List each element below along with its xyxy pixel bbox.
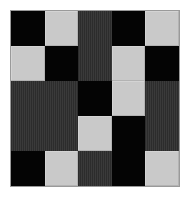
- grid-cell-dark-r3c4: [145, 116, 179, 151]
- grid-cell-dark-r4c2: [78, 151, 112, 186]
- grid-cell-black-r1c1: [45, 46, 79, 81]
- grid-cell-black-r2c2: [78, 81, 112, 116]
- grid-cell-light-r2c3: [112, 81, 146, 116]
- grid-cell-light-r4c1: [45, 151, 79, 186]
- grid-cell-dark-r0c2: [78, 11, 112, 46]
- grid-cell-dark-r3c0: [11, 116, 45, 151]
- grid-cell-black-r4c3: [112, 151, 146, 186]
- checkerboard-grid: [11, 11, 179, 186]
- grid-cell-dark-r2c0: [11, 81, 45, 116]
- grid-cell-light-r1c3: [112, 46, 146, 81]
- grid-cell-light-r3c2: [78, 116, 112, 151]
- figure-root: [0, 0, 190, 197]
- grid-cell-light-r0c1: [45, 11, 79, 46]
- grid-cell-light-r4c4: [145, 151, 179, 186]
- grid-cell-black-r3c3: [112, 116, 146, 151]
- grid-cell-dark-r2c1: [45, 81, 79, 116]
- grid-cell-black-r4c0: [11, 151, 45, 186]
- grid-cell-dark-r1c2: [78, 46, 112, 81]
- grid-cell-light-r1c0: [11, 46, 45, 81]
- grid-cell-black-r1c4: [145, 46, 179, 81]
- grid-cell-black-r0c0: [11, 11, 45, 46]
- grid-cell-light-r0c4: [145, 11, 179, 46]
- grid-cell-dark-r2c4: [145, 81, 179, 116]
- grid-frame: [10, 10, 180, 187]
- grid-cell-black-r0c3: [112, 11, 146, 46]
- grid-cell-dark-r3c1: [45, 116, 79, 151]
